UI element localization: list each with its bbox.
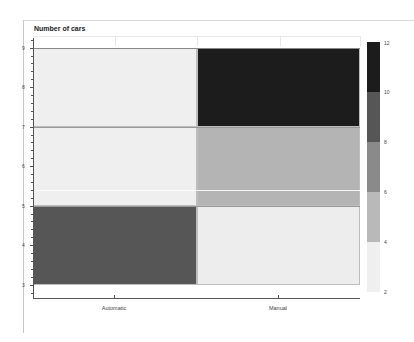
y-minor-tick [31,150,33,151]
render-line-artifact [33,190,360,191]
y-tick [30,245,33,246]
top-strip-divider [197,36,198,46]
y-tick-label: 4 [22,242,25,248]
y-tick [30,166,33,167]
heatmap-cell-automatic-5-7 [33,127,197,206]
y-minor-tick [31,198,33,199]
y-tick [30,48,33,49]
y-tick-label: 8 [22,84,25,90]
y-minor-tick [31,293,33,294]
y-minor-tick [31,269,33,270]
chart-title: Number of cars [34,25,85,32]
y-minor-tick [31,63,33,64]
y-axis [33,38,34,298]
y-minor-tick [31,253,33,254]
y-tick-label: 3 [22,282,25,288]
x-tick-label: Manual [269,305,287,311]
colorbar-tick-label: 6 [384,189,387,195]
colorbar-band-10-12 [367,42,380,92]
y-minor-tick [31,158,33,159]
x-axis [33,298,360,299]
heatmap-cell-manual-3-5 [197,206,360,285]
y-tick [30,285,33,286]
y-tick-label: 5 [22,203,25,209]
y-minor-tick [31,119,33,120]
colorbar [367,42,380,292]
colorbar-tick-label: 8 [384,139,387,145]
colorbar-tick-label: 2 [384,289,387,295]
y-minor-tick [31,135,33,136]
y-minor-tick [31,261,33,262]
y-minor-tick [31,95,33,96]
y-minor-tick [31,111,33,112]
bin-boundary-9 [33,48,360,49]
top-strip-divider [280,36,281,46]
x-tick [114,295,115,298]
bin-boundary-7 [33,127,360,128]
heatmap-cell-manual-5-7 [197,127,360,206]
colorbar-tick-label: 10 [384,89,390,95]
y-tick [30,206,33,207]
y-minor-tick [31,142,33,143]
y-minor-tick [31,56,33,57]
colorbar-band-4-6 [367,192,380,242]
x-tick-label: Automatic [102,305,126,311]
y-tick [30,127,33,128]
y-minor-tick [31,277,33,278]
x-tick [278,295,279,298]
heatmap-plot-area [33,48,360,285]
y-minor-tick [31,174,33,175]
y-minor-tick [31,79,33,80]
y-tick [30,87,33,88]
bin-boundary-5 [33,206,360,207]
y-minor-tick [31,103,33,104]
y-minor-tick [31,214,33,215]
y-minor-tick [31,237,33,238]
y-minor-tick [31,71,33,72]
y-minor-tick [31,40,33,41]
y-tick-label: 9 [22,45,25,51]
colorbar-band-6-8 [367,142,380,192]
y-tick-label: 6 [22,163,25,169]
colorbar-band-2-4 [367,242,380,292]
y-minor-tick [31,182,33,183]
heatmap-cell-automatic-3-5 [33,206,197,285]
heatmap-cell-manual-7-9 [197,48,360,127]
colorbar-tick-label: 4 [384,239,387,245]
y-minor-tick [31,229,33,230]
y-minor-tick [31,221,33,222]
y-minor-tick [31,190,33,191]
y-tick-label: 7 [22,124,25,130]
heatmap-cell-automatic-7-9 [33,48,197,127]
top-strip-divider [115,36,116,46]
colorbar-band-8-10 [367,92,380,142]
colorbar-tick-label: 12 [384,40,390,46]
